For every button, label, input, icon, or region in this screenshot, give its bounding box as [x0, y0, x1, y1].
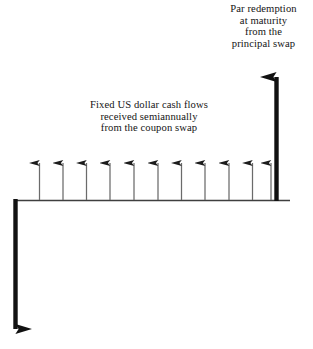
coupon-inflow-arrows: [40, 163, 272, 200]
coupon-cashflow-label: Fixed US dollar cash flows received semi…: [86, 99, 212, 134]
cash-flow-diagram: Par redemption at maturity from the prin…: [0, 0, 313, 349]
principal-redemption-label: Par redemption at maturity from the prin…: [214, 3, 313, 49]
diagram-canvas: [0, 0, 313, 349]
